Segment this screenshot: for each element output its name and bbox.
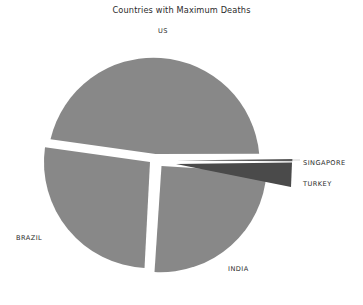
pie-label-us: US [158, 27, 168, 35]
pie-label-brazil: BRAZIL [16, 234, 42, 242]
pie-label-turkey: TURKEY [303, 180, 332, 188]
pie-chart-canvas [0, 0, 363, 305]
pie-slice-us[interactable] [51, 58, 260, 154]
pie-slice-india[interactable] [155, 166, 267, 272]
pie-slice-singapore[interactable] [177, 159, 293, 161]
pie-chart-figure: Countries with Maximum Deaths US BRAZIL … [0, 0, 363, 305]
pie-label-singapore: SINGAPORE [303, 159, 346, 167]
pie-label-india: INDIA [228, 265, 249, 273]
pie-slice-brazil[interactable] [44, 147, 150, 268]
